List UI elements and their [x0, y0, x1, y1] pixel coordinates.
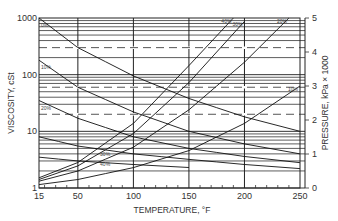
- curve-label: 40%: [221, 18, 232, 24]
- right-axis-title: PRESSURE, kPa × 1000: [320, 55, 330, 150]
- curve-label: 0%: [41, 22, 49, 28]
- curve-label: 20%: [41, 105, 52, 111]
- right-tick-label: 4: [312, 47, 317, 57]
- x-tick-label: 200: [237, 191, 252, 201]
- x-axis-title: TEMPERATURE, °F: [134, 205, 211, 215]
- curve-label: 10%: [41, 64, 52, 70]
- x-axis-ticks: 1550100150200250: [34, 185, 308, 201]
- curve-label: 30%: [232, 21, 243, 27]
- left-tick-label: 100: [22, 70, 37, 80]
- curve-label: 30%: [100, 151, 111, 157]
- curve-label: 10%: [288, 86, 299, 92]
- right-tick-label: 3: [312, 81, 317, 91]
- x-tick-label: 150: [181, 191, 196, 201]
- curve-label: 40%: [100, 161, 111, 167]
- curve-viscosity-40-: [39, 157, 189, 167]
- left-tick-label: 1000: [17, 13, 37, 23]
- left-tick-label: 10: [27, 126, 37, 136]
- x-tick-label: 250: [292, 191, 307, 201]
- right-tick-label: 1: [312, 149, 317, 159]
- left-tick-label: 1: [32, 183, 37, 193]
- curve-label: 20%: [277, 18, 288, 24]
- grid: [39, 18, 305, 188]
- x-tick-label: 50: [73, 191, 83, 201]
- curve-pressure-30-: [39, 21, 244, 179]
- right-tick-label: 5: [312, 13, 317, 23]
- right-tick-label: 2: [312, 115, 317, 125]
- left-axis-ticks: 1101001000: [17, 13, 37, 193]
- x-tick-label: 100: [126, 191, 141, 201]
- right-tick-label: 0: [312, 183, 317, 193]
- chart-canvas: 0%10%20%30%40%10%20%30%40% 1550100150200…: [0, 0, 338, 221]
- right-axis-ticks: 012345: [305, 13, 317, 193]
- left-axis-title: VISCOSITY, cSt: [6, 72, 16, 134]
